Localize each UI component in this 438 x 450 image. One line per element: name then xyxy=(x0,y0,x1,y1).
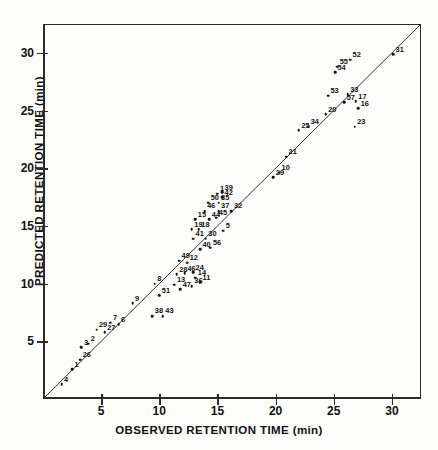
data-point xyxy=(209,247,212,250)
data-point-label: 2 xyxy=(91,335,95,342)
data-point xyxy=(131,302,134,305)
data-point-label: 53 xyxy=(330,87,338,94)
data-point-label: 16 xyxy=(361,100,369,107)
data-point-label: 8 xyxy=(157,275,161,282)
data-point-label: 56 xyxy=(213,239,221,246)
data-point xyxy=(215,217,218,220)
data-point xyxy=(199,281,202,284)
data-point xyxy=(79,358,82,361)
y-tick-mark xyxy=(37,226,48,228)
y-tick-mark xyxy=(37,53,48,55)
data-point-label: 10 xyxy=(282,164,290,171)
data-point xyxy=(162,315,165,318)
x-tick-label: 25 xyxy=(327,404,340,418)
data-point xyxy=(230,210,233,213)
data-point xyxy=(207,202,210,205)
x-tick-label: 30 xyxy=(385,404,398,418)
data-point xyxy=(158,294,161,297)
data-point-label: 7 xyxy=(113,314,117,321)
data-point xyxy=(221,196,224,199)
data-point xyxy=(392,53,395,56)
data-point xyxy=(192,237,195,240)
data-point xyxy=(80,346,83,349)
y-tick-label: 15 xyxy=(21,219,34,233)
data-point-label: 41 xyxy=(196,230,204,237)
data-point-label: 34 xyxy=(311,118,319,125)
scatter-plot-figure: PREDICTED RETENTION TIME (min) OBSERVED … xyxy=(0,0,438,450)
y-tick-mark xyxy=(37,284,48,286)
data-point xyxy=(198,228,201,231)
data-point-label: 21 xyxy=(289,148,297,155)
data-point xyxy=(298,129,301,132)
data-point-label: 18 xyxy=(201,221,209,228)
data-point xyxy=(186,262,189,265)
data-point xyxy=(109,322,112,325)
data-point xyxy=(191,228,194,231)
data-point xyxy=(199,248,202,251)
data-point-label: 11 xyxy=(203,274,211,281)
data-point xyxy=(278,172,281,175)
data-point-label: 32 xyxy=(234,202,242,209)
data-point xyxy=(272,176,275,179)
data-point xyxy=(60,383,63,386)
data-point xyxy=(191,285,194,288)
data-point-label: 9 xyxy=(135,295,139,302)
data-point-label: 1 xyxy=(75,361,79,368)
data-point xyxy=(221,191,224,194)
data-point-label: 30 xyxy=(208,230,216,237)
data-point xyxy=(194,218,197,221)
data-point xyxy=(353,125,356,128)
x-tick-label: 5 xyxy=(98,404,105,418)
y-tick-label: 25 xyxy=(21,104,34,118)
data-point-label: 43 xyxy=(165,307,173,314)
data-point-label: 26 xyxy=(83,351,91,358)
y-tick-mark xyxy=(37,111,48,113)
data-point xyxy=(103,331,106,334)
data-point-label: 4 xyxy=(64,376,68,383)
y-tick-label: 5 xyxy=(27,334,34,348)
data-point xyxy=(285,155,288,158)
x-axis-title: OBSERVED RETENTION TIME (min) xyxy=(0,424,438,436)
data-point-label: 12 xyxy=(190,254,198,261)
data-point xyxy=(334,71,337,74)
plot-area: 51015202530 51015202530 4126322927769384… xyxy=(43,24,421,399)
x-tick-label: 20 xyxy=(269,404,282,418)
data-point xyxy=(222,229,225,232)
x-tick-label: 10 xyxy=(153,404,166,418)
data-point xyxy=(307,125,310,128)
data-point-label: 29 xyxy=(99,321,107,328)
data-point xyxy=(205,237,208,240)
data-point xyxy=(217,202,220,205)
data-point xyxy=(216,192,219,195)
data-point-label: 52 xyxy=(353,51,361,58)
data-point xyxy=(175,273,178,276)
data-point xyxy=(179,288,182,291)
data-point xyxy=(217,210,220,213)
y-tick-mark xyxy=(37,168,48,170)
data-point-label: 6 xyxy=(121,316,125,323)
y-tick-label: 10 xyxy=(21,277,34,291)
y-tick-label: 30 xyxy=(21,46,34,60)
data-point xyxy=(349,58,352,61)
data-point-label: 55 xyxy=(340,58,348,65)
data-point xyxy=(117,323,120,326)
data-point-label: 45 xyxy=(219,209,227,216)
data-point-label: 42 xyxy=(225,189,233,196)
data-point-label: 51 xyxy=(162,287,170,294)
data-point xyxy=(357,107,360,110)
data-point-label: 49 xyxy=(182,252,190,259)
data-point xyxy=(95,328,98,331)
data-point-label: 37 xyxy=(221,202,229,209)
data-point-label: 31 xyxy=(396,46,404,53)
data-point xyxy=(151,315,154,318)
data-point xyxy=(153,282,156,285)
data-point xyxy=(208,218,211,221)
data-point-label: 27 xyxy=(107,324,115,331)
data-point xyxy=(327,94,330,97)
data-point-label: 23 xyxy=(357,118,365,125)
data-point xyxy=(173,283,176,286)
data-point xyxy=(343,101,346,104)
data-point xyxy=(324,113,327,116)
data-point xyxy=(87,342,90,345)
data-point xyxy=(355,100,358,103)
